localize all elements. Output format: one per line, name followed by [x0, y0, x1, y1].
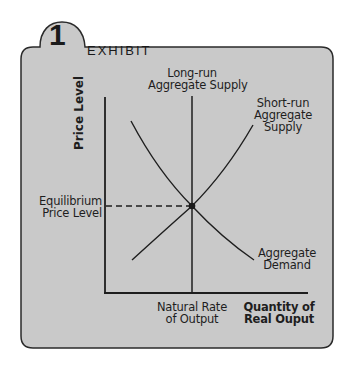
x-axis-label: Quantity of Real Ouput: [241, 301, 317, 325]
ad-label: Aggregate Demand: [252, 247, 322, 271]
sras-label: Short-run Aggregate Supply: [248, 97, 318, 133]
natural-rate-label: Natural Rate of Output: [152, 301, 232, 325]
lras-label: Long-run Aggregate Supply: [148, 67, 236, 91]
equilibrium-price-label: Equilibrium Price Level: [22, 195, 102, 219]
y-axis-label: Price Level: [72, 76, 86, 150]
exhibit-label: EXHIBIT: [87, 43, 152, 58]
exhibit-number: 1: [49, 20, 66, 50]
ad-label-line2: Demand: [252, 259, 322, 271]
x-axis-label-line2: Real Ouput: [241, 313, 317, 325]
equilibrium-point: [189, 203, 196, 210]
equilibrium-label-line2: Price Level: [22, 207, 102, 219]
sras-label-line3: Supply: [248, 121, 318, 133]
lras-label-line2: Aggregate Supply: [148, 79, 236, 91]
natural-rate-line2: of Output: [152, 313, 232, 325]
